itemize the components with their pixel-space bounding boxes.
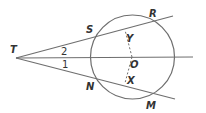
ray-to: [16, 57, 193, 58]
label-m: M: [146, 100, 156, 111]
secant-tr: [16, 16, 173, 58]
label-y: Y: [126, 33, 135, 44]
label-n: N: [86, 81, 95, 92]
secant-tm: [16, 58, 175, 99]
label-o: O: [130, 59, 139, 70]
label-t: T: [10, 44, 18, 55]
angle-1-label: 1: [62, 59, 68, 70]
angle-2-label: 2: [61, 46, 67, 57]
label-x: X: [126, 75, 136, 86]
label-r: R: [149, 8, 157, 19]
label-s: S: [86, 24, 93, 35]
geometry-diagram: T S R Y O X N M 2 1: [0, 0, 206, 113]
